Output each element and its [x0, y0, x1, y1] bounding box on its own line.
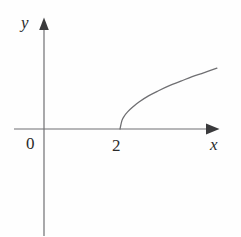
x-axis-label: x	[210, 136, 218, 153]
plot-canvas	[0, 0, 241, 236]
x-tick-label-2: 2	[112, 137, 121, 154]
axes-group	[14, 18, 220, 237]
curve-group	[120, 68, 217, 129]
origin-label: 0	[26, 135, 35, 152]
y-axis-arrowhead	[39, 18, 49, 31]
sqrt-curve-path	[120, 68, 217, 129]
y-axis-label: y	[21, 14, 29, 31]
graph-figure: y x 0 2	[0, 0, 241, 236]
x-axis-arrowhead	[206, 124, 220, 135]
